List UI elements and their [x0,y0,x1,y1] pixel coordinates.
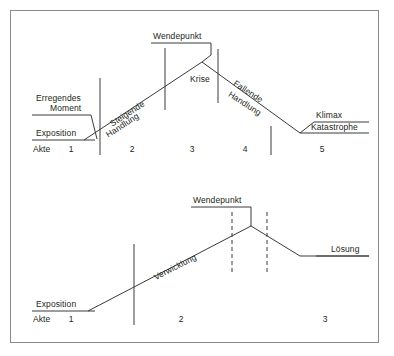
top-label-crisis: Krise [190,74,210,84]
freytag-figure: Exposition Erregendes Moment Steigende H… [0,0,394,356]
bottom-act-number-2: 2 [174,314,188,324]
bottom-label-exposition: Exposition [36,299,76,309]
top-act-number-1: 1 [64,144,78,154]
bottom-label-resolution: Lösung [331,244,360,254]
bottom-act-number-3: 3 [318,314,332,324]
top-label-turning-point: Wendepunkt [153,31,202,41]
top-act-number-3: 3 [185,144,199,154]
bottom-label-turning-point: Wendepunkt [193,195,242,205]
bottom-act-number-1: 1 [64,314,78,324]
top-act-number-2: 2 [125,144,139,154]
top-act-number-4: 4 [238,144,252,154]
top-label-catastrophe: Katastrophe [311,122,358,132]
top-act-number-5: 5 [315,144,329,154]
figure-border [10,10,379,343]
top-label-exposition: Exposition [36,128,76,138]
top-label-climax: Klimax [316,110,342,120]
top-label-inciting-moment-line2: Moment [50,103,81,113]
bottom-axis-label-akte: Akte [33,314,50,324]
top-label-inciting-moment-line1: Erregendes [36,93,81,103]
top-axis-label-akte: Akte [33,144,50,154]
